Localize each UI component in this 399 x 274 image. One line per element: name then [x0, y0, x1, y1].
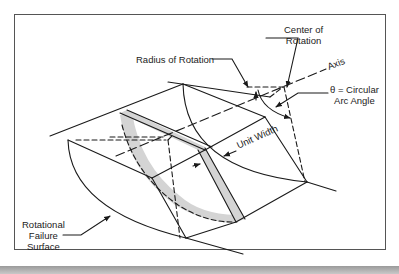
page-bottom-strip	[0, 266, 399, 274]
theta-line2: Arc Angle	[330, 95, 379, 106]
label-theta: θ = Circular Arc Angle	[330, 84, 379, 106]
label-radius-of-rotation: Radius of Rotation	[136, 54, 214, 65]
radius-leader	[212, 59, 248, 87]
failure-leader	[63, 216, 110, 235]
rotation-axis	[116, 69, 326, 156]
label-failure-surface: Rotational Failure Surface	[22, 219, 65, 252]
label-center-of-rotation: Center of Rotation	[284, 24, 323, 46]
center-of-rotation-line2: Rotation	[284, 35, 323, 46]
failure-surface-line2: Failure	[22, 230, 65, 241]
failure-surface-line3: Surface	[22, 241, 65, 252]
theta-leader	[276, 93, 328, 107]
center-of-rotation-line1: Center of	[284, 24, 323, 35]
curved-slice-band	[120, 112, 238, 223]
theta-line1: θ = Circular	[330, 84, 379, 95]
failure-surface-line1: Rotational	[22, 219, 65, 230]
unit-width-leader	[224, 151, 236, 156]
